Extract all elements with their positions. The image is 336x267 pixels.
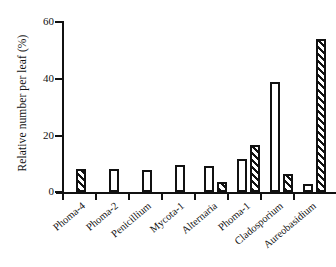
x-tick-mark-7 <box>260 193 262 200</box>
y-tick-label-40: 40 <box>26 73 54 84</box>
x-tick-mark-5 <box>194 193 196 200</box>
bar-cladosporium-hatched <box>283 174 293 192</box>
bar-chart-figure: Relative number per leaf (%) 60 40 20 0 <box>0 0 336 267</box>
y-tick-label-0: 0 <box>26 186 54 197</box>
x-tick-mark-1 <box>62 193 64 200</box>
bar-phoma-1-open <box>237 159 247 192</box>
bar-alternaria-open <box>204 166 214 192</box>
y-tick-label-20: 20 <box>26 130 54 141</box>
x-tick-mark-8 <box>293 193 295 200</box>
y-axis-label: Relative number per leaf (%) <box>14 8 30 198</box>
y-tick-mark-20 <box>55 135 62 137</box>
x-tick-mark-6 <box>227 193 229 200</box>
x-tick-mark-3 <box>128 193 130 200</box>
bar-aureobasidium-hatched <box>316 39 326 192</box>
bar-phoma-1-hatched <box>250 145 260 192</box>
y-tick-mark-40 <box>55 78 62 80</box>
y-tick-mark-0 <box>55 191 62 193</box>
bar-phoma-4-hatched <box>76 169 86 193</box>
bar-cladosporium-open <box>270 82 280 193</box>
x-tick-mark-2 <box>95 193 97 200</box>
x-tick-mark-4 <box>161 193 163 200</box>
bar-aureobasidium-open <box>303 184 313 193</box>
y-tick-label-60: 60 <box>26 16 54 27</box>
plot-area <box>62 22 330 192</box>
bar-mycota-1-open <box>175 165 185 192</box>
bar-phoma-2-open <box>109 169 119 192</box>
y-tick-mark-60 <box>55 21 62 23</box>
bar-penicillium-open <box>142 170 152 192</box>
bar-alternaria-hatched <box>217 182 227 192</box>
